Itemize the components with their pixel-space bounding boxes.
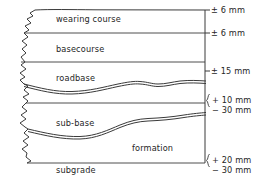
tolerance-label-formation-upper: + 20 mm xyxy=(212,155,252,165)
roadbase-bottom-wavy-upper xyxy=(24,80,206,91)
tolerance-label-formation-lower: − 30 mm xyxy=(212,165,252,175)
brace-sub-base-tolerance xyxy=(207,94,210,107)
tolerance-label-wearing-course-surface: ± 6 mm xyxy=(211,5,245,15)
layer-label-sub-base: sub-base xyxy=(56,118,94,128)
tolerance-label-sub-base-upper: + 10 mm xyxy=(212,95,252,105)
layer-label-wearing-course: wearing course xyxy=(56,14,121,24)
tolerance-label-basecourse-surface: ± 6 mm xyxy=(211,28,245,38)
formation-line-lower xyxy=(28,115,206,139)
tolerance-label-roadbase-surface: ± 15 mm xyxy=(211,66,251,76)
formation-line-upper xyxy=(28,113,206,137)
pavement-cross-section-diagram: wearing course basecourse roadbase sub-b… xyxy=(0,0,266,182)
layer-label-formation: formation xyxy=(132,143,173,153)
brace-formation-tolerance xyxy=(207,154,210,167)
layer-label-basecourse: basecourse xyxy=(56,44,104,54)
layer-label-roadbase: roadbase xyxy=(56,73,95,83)
layer-label-subgrade: subgrade xyxy=(56,165,96,175)
tolerance-label-sub-base-lower: − 30 mm xyxy=(212,105,252,115)
